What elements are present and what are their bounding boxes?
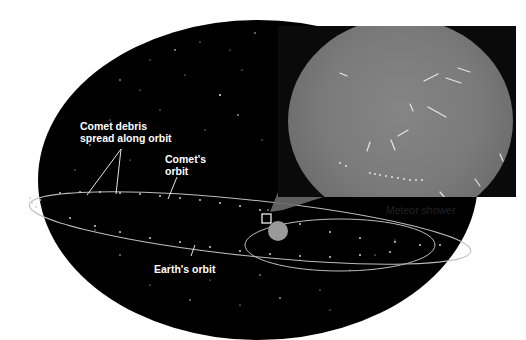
earth-icon <box>268 221 288 241</box>
meteor-shower-caption: Meteor shower <box>386 204 455 216</box>
earths-orbit-label: Earth's orbit <box>154 263 215 275</box>
comet-debris-label-line2: spread along orbit <box>80 132 172 144</box>
meteor-streaks <box>278 26 516 197</box>
comet-orbit-leader <box>168 177 177 199</box>
comet-debris <box>29 191 441 258</box>
meteor-shower-photo <box>278 26 516 197</box>
debris-leader-2 <box>116 149 121 194</box>
debris-leader-1 <box>87 149 121 195</box>
observer-box-icon <box>262 214 271 223</box>
comets-orbit-label: Comet's orbit <box>165 153 206 177</box>
comet-debris-label-line1: Comet debris <box>80 120 172 132</box>
comets-orbit-label-line2: orbit <box>165 165 206 177</box>
comets-orbit-label-line1: Comet's <box>165 153 206 165</box>
earth-orbit-leader <box>191 245 195 256</box>
comet-debris-label: Comet debris spread along orbit <box>80 120 172 144</box>
